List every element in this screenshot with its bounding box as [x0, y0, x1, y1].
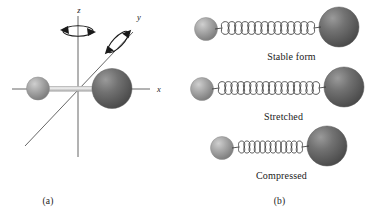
state-label-compressed: Compressed — [190, 170, 367, 181]
atom-small — [191, 78, 214, 101]
panel-b-spring-states: Stable form Stretched Compressed (b) — [184, 0, 367, 217]
atom-large — [92, 69, 132, 109]
caption-b: (b) — [188, 196, 367, 206]
atom-small — [195, 18, 218, 41]
atom-large — [324, 67, 364, 107]
spring-row-stretched — [191, 67, 365, 107]
figure-root: z y x ( — [0, 0, 367, 217]
caption-a: (a) — [0, 196, 140, 206]
axis-label-y: y — [136, 12, 141, 22]
atom-small — [211, 137, 234, 160]
spring-stable — [215, 22, 321, 35]
atom-small — [27, 77, 50, 100]
atom-large — [307, 126, 347, 166]
spring-compressed — [232, 141, 309, 153]
panel-a-rotation-axes: z y x ( — [0, 0, 184, 217]
rotation-arrow-y-icon — [102, 26, 134, 59]
spring-row-stable — [195, 7, 360, 47]
atom-large — [319, 7, 359, 47]
panel-a-svg: z y x — [0, 0, 184, 200]
spring-stretched — [212, 82, 326, 95]
axis-label-z: z — [76, 5, 81, 15]
spring-row-compressed — [211, 126, 348, 166]
state-label-stable: Stable form — [200, 51, 367, 62]
state-label-stretched: Stretched — [192, 111, 367, 122]
axis-label-x: x — [156, 84, 161, 94]
